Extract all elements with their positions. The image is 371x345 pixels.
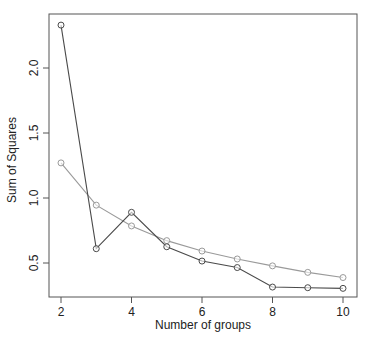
data-point-marker: [93, 246, 99, 252]
data-point-marker: [270, 284, 276, 290]
y-tick-label: 2.0: [27, 59, 41, 76]
data-point-marker: [93, 202, 99, 208]
data-point-marker: [270, 263, 276, 269]
data-point-marker: [340, 285, 346, 291]
data-point-marker: [234, 265, 240, 271]
data-point-marker: [305, 269, 311, 275]
data-point-marker: [164, 244, 170, 250]
data-point-marker: [199, 248, 205, 254]
y-tick-label: 0.5: [27, 254, 41, 271]
line-chart: 246810 0.51.01.52.0 Number of groups Sum…: [0, 0, 371, 345]
x-axis: 246810: [58, 297, 350, 319]
y-tick-label: 1.0: [27, 189, 41, 206]
y-axis-label: Sum of Squares: [5, 117, 19, 203]
plot-frame: [49, 14, 357, 297]
data-point-marker: [129, 209, 135, 215]
series-group: [58, 22, 346, 291]
x-tick-label: 10: [336, 305, 350, 319]
x-tick-label: 6: [199, 305, 206, 319]
data-point-marker: [340, 275, 346, 281]
x-tick-label: 2: [58, 305, 65, 319]
data-point-marker: [199, 258, 205, 264]
y-axis: 0.51.01.52.0: [27, 59, 49, 271]
x-tick-label: 8: [269, 305, 276, 319]
data-point-marker: [305, 285, 311, 291]
data-point-marker: [164, 238, 170, 244]
data-point-marker: [129, 223, 135, 229]
x-axis-label: Number of groups: [155, 318, 251, 332]
x-tick-label: 4: [128, 305, 135, 319]
data-point-marker: [58, 160, 64, 166]
data-point-marker: [234, 256, 240, 262]
y-tick-label: 1.5: [27, 124, 41, 141]
data-point-marker: [58, 22, 64, 28]
